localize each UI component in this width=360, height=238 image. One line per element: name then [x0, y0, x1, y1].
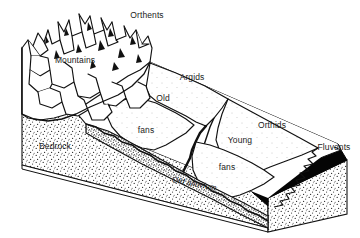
- label-old-fans-old: Old: [156, 94, 170, 103]
- label-old-fans-fans: fans: [138, 126, 154, 135]
- block-diagram-artwork: [0, 0, 360, 238]
- label-fluvents: Fluvents: [318, 143, 351, 152]
- label-young-fans-fans: fans: [219, 163, 235, 172]
- label-orthids: Orthids: [258, 121, 286, 130]
- label-mountains: Mountains: [55, 56, 95, 65]
- crag-facet-3: [69, 14, 82, 36]
- label-young: Young: [228, 136, 252, 145]
- label-orthents: Orthents: [130, 11, 163, 20]
- mountain-mass: [22, 14, 152, 121]
- block-diagram-figure: Orthents Mountains Argids Old Orthids fa…: [0, 0, 360, 238]
- label-bedrock: Bedrock: [39, 142, 71, 151]
- label-argids: Argids: [180, 73, 205, 82]
